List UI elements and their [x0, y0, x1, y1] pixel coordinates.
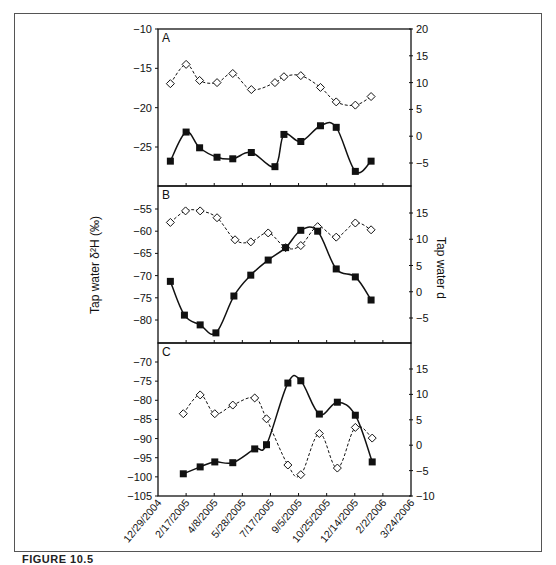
filled-square-marker — [369, 458, 376, 465]
series-d-line — [170, 210, 371, 249]
filled-square-marker — [212, 329, 219, 336]
left-y-tick-label: −75 — [133, 375, 152, 387]
filled-square-marker — [265, 257, 272, 264]
filled-square-marker — [284, 380, 291, 387]
left-y-tick-label: −20 — [133, 102, 152, 114]
open-diamond-marker — [247, 86, 255, 94]
right-y-tick-label: 5 — [416, 260, 422, 272]
right-y-tick-label: −5 — [416, 312, 429, 324]
open-diamond-marker — [316, 83, 324, 91]
open-diamond-marker — [263, 415, 271, 423]
filled-square-marker — [167, 158, 174, 165]
filled-square-marker — [280, 131, 287, 138]
filled-square-marker — [352, 168, 359, 175]
left-y-tick-label: −95 — [133, 452, 152, 464]
filled-square-marker — [314, 228, 321, 235]
filled-square-marker — [316, 411, 323, 418]
right-y-tick-label: 10 — [416, 233, 428, 245]
right-y-tick-label: 5 — [416, 103, 422, 115]
filled-square-marker — [297, 138, 304, 145]
right-y-tick-label: 15 — [416, 50, 428, 62]
panel-frame-c — [158, 343, 411, 496]
filled-square-marker — [251, 445, 258, 452]
filled-square-marker — [334, 399, 341, 406]
filled-square-marker — [214, 154, 221, 161]
open-diamond-marker — [166, 80, 174, 88]
series-d-line — [170, 64, 371, 105]
left-axis-title: Tap water δ²H (‰) — [88, 216, 102, 314]
filled-square-marker — [297, 227, 304, 234]
left-y-tick-label: −60 — [133, 225, 152, 237]
filled-square-marker — [197, 463, 204, 470]
open-diamond-marker — [182, 60, 190, 68]
right-y-tick-label: 5 — [416, 414, 422, 426]
filled-square-marker — [352, 273, 359, 280]
filled-square-marker — [183, 129, 190, 136]
left-y-tick-label: −85 — [133, 413, 152, 425]
open-diamond-marker — [351, 219, 359, 227]
filled-square-marker — [167, 278, 174, 285]
right-y-tick-label: 15 — [416, 207, 428, 219]
open-diamond-marker — [196, 391, 204, 399]
right-y-tick-label: 0 — [416, 286, 422, 298]
filled-square-marker — [333, 265, 340, 272]
open-diamond-marker — [229, 401, 237, 409]
filled-square-marker — [229, 459, 236, 466]
open-diamond-marker — [367, 93, 375, 101]
open-diamond-marker — [332, 98, 340, 106]
filled-square-marker — [181, 312, 188, 319]
panel-label: B — [162, 188, 170, 202]
right-y-tick-label: −10 — [416, 490, 435, 502]
right-y-tick-label: 15 — [416, 363, 428, 375]
filled-square-marker — [229, 155, 236, 162]
figure-caption: FIGURE 10.5 — [22, 553, 94, 565]
open-diamond-marker — [264, 229, 272, 237]
filled-square-marker — [263, 441, 270, 448]
left-y-tick-label: −100 — [127, 471, 152, 483]
filled-square-marker — [368, 158, 375, 165]
open-diamond-marker — [229, 69, 237, 77]
series-dH-line — [170, 227, 371, 334]
filled-square-marker — [271, 163, 278, 170]
filled-square-marker — [282, 244, 289, 251]
open-diamond-marker — [284, 461, 292, 469]
left-y-tick-label: −80 — [133, 394, 152, 406]
panel-frame-b — [158, 186, 411, 343]
filled-square-marker — [196, 144, 203, 151]
left-y-tick-label: −75 — [133, 292, 152, 304]
filled-square-marker — [248, 149, 255, 156]
open-diamond-marker — [351, 423, 359, 431]
left-y-tick-label: −15 — [133, 62, 152, 74]
filled-square-marker — [368, 297, 375, 304]
right-y-tick-label: 20 — [416, 23, 428, 35]
open-diamond-marker — [179, 410, 187, 418]
right-y-tick-label: 10 — [416, 388, 428, 400]
filled-square-marker — [247, 272, 254, 279]
open-diamond-marker — [280, 73, 288, 81]
open-diamond-marker — [196, 207, 204, 215]
open-diamond-marker — [297, 471, 305, 479]
filled-square-marker — [230, 293, 237, 300]
panel-label: A — [162, 31, 170, 45]
left-y-tick-label: −65 — [133, 247, 152, 259]
filled-square-marker — [180, 470, 187, 477]
open-diamond-marker — [368, 434, 376, 442]
right-y-tick-label: 10 — [416, 77, 428, 89]
filled-square-marker — [317, 122, 324, 129]
left-y-tick-label: −70 — [133, 356, 152, 368]
open-diamond-marker — [351, 101, 359, 109]
open-diamond-marker — [166, 218, 174, 226]
open-diamond-marker — [332, 233, 340, 241]
left-y-tick-label: −80 — [133, 314, 152, 326]
filled-square-marker — [197, 321, 204, 328]
filled-square-marker — [333, 124, 340, 131]
filled-square-marker — [211, 458, 218, 465]
open-diamond-marker — [367, 226, 375, 234]
open-diamond-marker — [271, 79, 279, 87]
left-y-tick-label: −10 — [133, 23, 152, 35]
right-y-tick-label: 0 — [416, 130, 422, 142]
left-y-tick-label: −55 — [133, 203, 152, 215]
open-diamond-marker — [251, 394, 259, 402]
left-y-tick-label: −70 — [133, 270, 152, 282]
